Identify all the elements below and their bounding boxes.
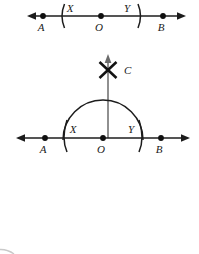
top-label-A: A — [37, 21, 45, 33]
perpendicular-up-arrow-icon — [105, 54, 112, 63]
bottom-label-O: O — [97, 143, 105, 155]
construction-figure: A O B X Y A O B — [0, 0, 199, 254]
top-line-right-arrow-icon — [177, 12, 186, 20]
top-label-Y: Y — [124, 2, 132, 14]
bottom-label-A: A — [39, 143, 47, 155]
diagram-page: A O B X Y A O B — [0, 0, 199, 254]
bottom-label-X: X — [69, 123, 78, 135]
top-panel: A O B X Y — [27, 2, 186, 33]
top-line-left-arrow-icon — [27, 12, 36, 20]
bottom-line-left-arrow-icon — [16, 134, 25, 142]
bottom-label-B: B — [156, 143, 163, 155]
top-point-A — [40, 13, 46, 19]
bottom-label-C: C — [124, 64, 132, 76]
bottom-point-B — [158, 135, 164, 141]
bottom-point-A — [42, 135, 48, 141]
top-label-X: X — [66, 2, 75, 14]
top-label-O: O — [95, 21, 103, 33]
top-point-B — [160, 13, 166, 19]
top-point-O — [98, 13, 104, 19]
bottom-line-right-arrow-icon — [181, 134, 190, 142]
bottom-panel: A O B X Y C — [16, 54, 190, 155]
corner-smudge-artifact — [0, 250, 14, 254]
bottom-label-Y: Y — [128, 123, 136, 135]
top-label-B: B — [158, 21, 165, 33]
bottom-point-O — [100, 135, 106, 141]
